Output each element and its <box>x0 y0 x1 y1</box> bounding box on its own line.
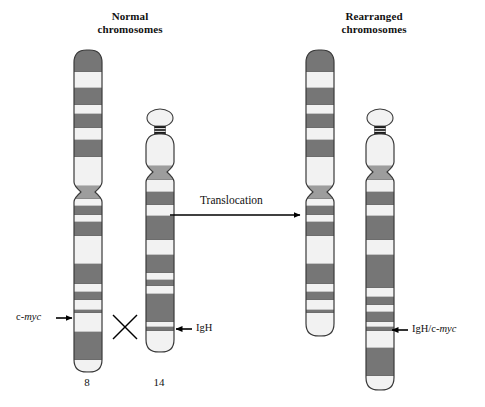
gene-label-igh-cmyc: IgH/c-myc <box>412 323 456 334</box>
chromosome-band <box>144 273 176 280</box>
gene-label-igh-prefix: IgH <box>196 322 212 333</box>
chromosome-band <box>304 310 336 313</box>
band-group <box>364 134 396 390</box>
gene-label-igh: IgH <box>196 322 212 333</box>
satellite-stalk <box>375 126 386 134</box>
chromosome-band <box>72 332 104 360</box>
chromosome-band <box>364 322 396 327</box>
chromosome-band <box>144 192 176 205</box>
chromosome-band <box>304 140 336 157</box>
gene-label-cmyc: c-myc <box>16 311 41 322</box>
chromosome-band <box>72 206 104 215</box>
chromosome-band <box>364 255 396 288</box>
chromosome-band <box>364 288 396 297</box>
chromosome-band <box>304 199 336 206</box>
satellite-knob <box>367 109 393 127</box>
chromosome-band <box>144 322 176 327</box>
chromosome-band <box>144 240 176 255</box>
chromosome-band <box>144 216 176 240</box>
chromosome-band <box>304 206 336 215</box>
band-group <box>304 50 336 336</box>
chromosome-band <box>144 286 176 294</box>
chromosome-band <box>72 199 104 206</box>
chromosome-band <box>72 157 104 186</box>
chromosome-band <box>364 134 396 166</box>
chromosome-band <box>304 128 336 140</box>
chromosome-band <box>364 180 396 192</box>
annotation-group <box>56 215 408 339</box>
gene-label-cmyc-prefix: c- <box>16 311 24 322</box>
chromosome-band <box>72 236 104 264</box>
chromosome-band <box>144 327 176 331</box>
chromosome-band <box>144 294 176 322</box>
gene-label-igh-cmyc-prefix: IgH/c- <box>412 323 439 334</box>
chromosome-band <box>72 292 104 300</box>
chromosome-band <box>72 88 104 105</box>
chromosome-band <box>304 114 336 128</box>
chromosome-band <box>72 222 104 236</box>
chromosome-band <box>304 157 336 186</box>
figure-root: Normal chromosomes Rearranged chromosome… <box>0 0 485 407</box>
chromosome-band <box>364 312 396 322</box>
chromosome-band <box>364 297 396 305</box>
satellite-stalk <box>155 126 166 134</box>
chromosome-band <box>144 255 176 273</box>
chromosome-band <box>72 72 104 88</box>
chromosome-band <box>72 310 104 313</box>
chromosome-band <box>304 264 336 284</box>
chromosome-band <box>144 180 176 192</box>
chromosome-band <box>72 114 104 128</box>
chromosome-band <box>72 360 104 372</box>
chromosome-band <box>364 327 396 331</box>
chromosome-normal-chr14[interactable] <box>144 109 176 352</box>
translocation-label: Translocation <box>200 194 263 206</box>
chromosome-band <box>364 305 396 312</box>
chromosome-group <box>72 50 396 390</box>
chromosome-band <box>144 134 176 166</box>
chromosome-band <box>72 140 104 157</box>
chromosome-rearranged-chr14[interactable] <box>364 109 396 390</box>
chromosome-band <box>304 88 336 105</box>
band-group <box>144 134 176 352</box>
chromosome-number-8: 8 <box>66 376 108 388</box>
chromosome-band <box>72 105 104 114</box>
band-group <box>72 50 104 372</box>
chromosome-band <box>144 280 176 286</box>
chromosome-band <box>304 72 336 88</box>
chromosome-band <box>364 376 396 390</box>
chromosome-band <box>364 216 396 240</box>
chromosome-band <box>364 240 396 255</box>
gene-label-cmyc-italic: myc <box>24 311 41 322</box>
chromosome-band <box>364 205 396 216</box>
chromosome-band <box>72 128 104 140</box>
chromosome-number-14: 14 <box>138 376 180 388</box>
chromosome-band <box>72 300 104 310</box>
chromosome-band <box>304 215 336 222</box>
chromosome-band <box>304 284 336 292</box>
chromosome-rearranged-chr8[interactable] <box>304 50 336 336</box>
chromosome-band <box>364 331 396 348</box>
satellite-knob <box>147 109 173 127</box>
chromosome-band <box>304 292 336 300</box>
chromosome-band <box>304 236 336 264</box>
chromosome-band <box>72 313 104 332</box>
chromosome-band <box>364 192 396 205</box>
chromosome-band <box>72 284 104 292</box>
chromosome-band <box>304 222 336 236</box>
chromosome-band <box>364 348 396 376</box>
chromosome-normal-chr8[interactable] <box>72 50 104 372</box>
chromosome-band <box>72 264 104 284</box>
chromosome-band <box>304 105 336 114</box>
gene-label-igh-cmyc-italic: myc <box>439 323 456 334</box>
chromosome-band <box>304 300 336 310</box>
chromosome-band <box>72 215 104 222</box>
